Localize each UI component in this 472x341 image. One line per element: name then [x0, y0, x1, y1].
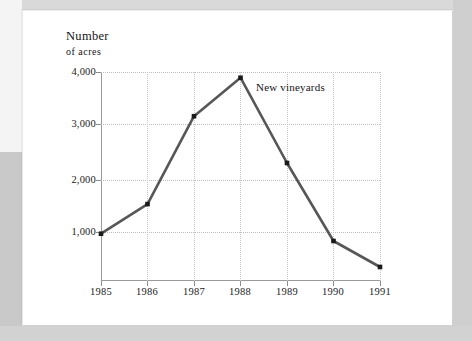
- series-annotation-label: New vineyards: [256, 81, 325, 93]
- x-axis-tick-labels: 1985 1986 1987 1988 1989 1990 1991: [0, 286, 472, 306]
- y-tick-label-1000: 1,000: [71, 226, 96, 237]
- x-tick-label-1987: 1987: [183, 286, 205, 297]
- x-tick-label-1991: 1991: [369, 286, 391, 297]
- series-markers: [99, 75, 383, 269]
- page-margin-left: [0, 152, 22, 341]
- x-tick-label-1985: 1985: [90, 286, 112, 297]
- screenshot-root: Number of acres 4,000 3,000 2,000 1,000: [0, 0, 472, 341]
- data-point-1987: [192, 114, 197, 119]
- x-tick-label-1988: 1988: [229, 286, 251, 297]
- data-point-1988: [238, 75, 243, 80]
- data-series-new-vineyards: [101, 72, 380, 281]
- data-point-1985: [99, 231, 104, 236]
- x-tick-label-1986: 1986: [136, 286, 158, 297]
- y-tick-label-4000: 4,000: [71, 66, 96, 77]
- data-point-1990: [331, 239, 336, 244]
- series-line: [101, 78, 380, 267]
- y-tick-label-2000: 2,000: [71, 174, 96, 185]
- data-point-1986: [145, 202, 150, 207]
- x-tick-label-1990: 1990: [322, 286, 344, 297]
- data-point-1991: [378, 265, 383, 270]
- page-margin-top-left: [0, 0, 22, 152]
- y-tick-label-3000: 3,000: [71, 118, 96, 129]
- data-point-1989: [285, 161, 290, 166]
- x-tick-label-1989: 1989: [276, 286, 298, 297]
- gridline-1991: [380, 72, 381, 281]
- plot-area: [101, 72, 380, 281]
